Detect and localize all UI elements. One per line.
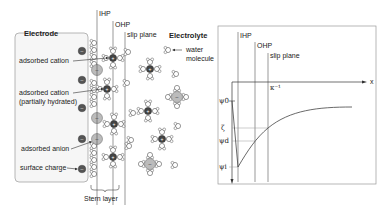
ihp-label: IHP <box>99 10 111 17</box>
x-axis-label: x <box>370 78 374 85</box>
ohp-cations <box>96 47 125 168</box>
edl-figure: + − − Electrode <box>0 0 390 216</box>
electrode-title: Electrode <box>24 29 58 38</box>
electrolyte-ions <box>123 48 189 175</box>
graph-ohp-label: OHP <box>257 42 273 49</box>
psii-label: ψi <box>219 163 227 171</box>
slip-plane-label: slip plane <box>127 31 157 39</box>
zeta-label: ζ <box>221 124 225 132</box>
psi0-label: ψ0 <box>219 97 229 105</box>
inner-water-layer <box>90 39 97 177</box>
psid-label: ψd <box>219 137 229 145</box>
ohp-label: OHP <box>115 21 131 28</box>
electrode-panel <box>15 33 88 182</box>
stern-layer-label: Stern layer <box>84 195 119 203</box>
label-surface-charge: surface charge <box>20 164 66 172</box>
electrolyte-title: Electrolyte <box>169 31 207 40</box>
label-adsorbed-cation-partial-2: (partially hydrated) <box>19 98 77 106</box>
label-adsorbed-cation: adsorbed cation <box>19 57 69 64</box>
water-label-line1: water <box>185 46 204 53</box>
graph-slip-label: slip plane <box>270 52 300 60</box>
stern-layer-brace <box>91 185 119 192</box>
water-label-line2: molecule <box>186 55 214 62</box>
label-adsorbed-cation-partial-1: adsorbed cation <box>19 89 69 96</box>
kappa-label: κ⁻¹ <box>270 84 281 92</box>
graph-ihp-label: IHP <box>240 32 252 39</box>
label-adsorbed-anion: adsorbed anion <box>21 145 69 152</box>
water-molecule-legend-icon <box>164 46 171 53</box>
